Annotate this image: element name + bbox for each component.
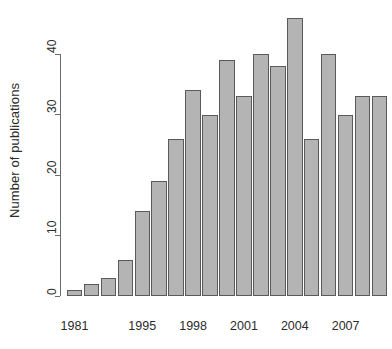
- bar: [135, 211, 151, 296]
- bar: [151, 181, 167, 296]
- bar-chart-figure: Number of publications 010203040 1981199…: [0, 0, 392, 349]
- bar: [202, 115, 218, 297]
- bar: [338, 115, 354, 297]
- y-axis-tick-mark: [55, 175, 60, 176]
- bar: [168, 139, 184, 296]
- y-axis-tick-mark: [55, 296, 60, 297]
- y-axis-label-container: Number of publications: [0, 0, 30, 300]
- y-axis-tick-mark: [55, 235, 60, 236]
- y-axis-label: Number of publications: [8, 82, 23, 217]
- x-axis-tick-labels: 198119951998200120042007: [0, 305, 392, 335]
- y-axis-tick-mark: [55, 54, 60, 55]
- bar: [253, 54, 269, 296]
- x-axis-tick-label: 1998: [179, 319, 207, 333]
- x-axis-tick-label: 1995: [128, 319, 156, 333]
- y-axis-line: [60, 54, 61, 296]
- bar: [101, 278, 117, 296]
- bar: [185, 90, 201, 296]
- bar: [236, 96, 252, 296]
- bar: [67, 290, 83, 296]
- bar: [355, 96, 371, 296]
- y-axis-tick-mark: [55, 114, 60, 115]
- bar: [118, 260, 134, 296]
- plot-area: [66, 8, 388, 296]
- x-axis-tick-label: 2007: [332, 319, 360, 333]
- bar: [219, 60, 235, 296]
- bar: [304, 139, 320, 296]
- x-axis-tick-label: 1981: [61, 319, 89, 333]
- bar: [321, 54, 337, 296]
- bar: [84, 284, 100, 296]
- bar: [372, 96, 388, 296]
- x-axis-tick-label: 2001: [230, 319, 258, 333]
- bar: [270, 66, 286, 296]
- x-axis-tick-label: 2004: [281, 319, 309, 333]
- bar: [287, 18, 303, 296]
